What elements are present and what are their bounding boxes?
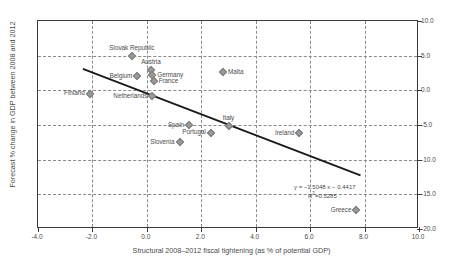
data-point-marker (148, 92, 156, 100)
gridline-vertical (147, 21, 148, 227)
gridline-vertical (365, 21, 366, 227)
plot-area: Slovak RepublicBelgiumAustriaGermanyFran… (37, 20, 418, 228)
y-tick-label: -20.0 (421, 225, 436, 232)
x-tick-label: 10.0 (412, 233, 425, 240)
x-tick (92, 227, 93, 232)
scatter-chart: Forecast % change in GDP between 2008 an… (0, 0, 463, 268)
data-point-label: Portugal (182, 129, 205, 135)
data-point-label: Malta (228, 68, 243, 74)
y-tick-label: 0.0 (421, 86, 430, 93)
data-point-marker (133, 72, 141, 80)
data-point-marker (219, 67, 227, 75)
data-point-marker (295, 128, 303, 136)
data-point-label: Belgium (110, 73, 133, 79)
x-tick (201, 227, 202, 232)
y-tick-label: 10.0 (421, 17, 434, 24)
gridline-horizontal (38, 160, 417, 161)
x-tick (38, 227, 39, 232)
gridline-horizontal (38, 90, 417, 91)
data-point-label: Slovak Republic (109, 44, 154, 50)
r-squared-value: =0.5285 (315, 193, 337, 199)
y-tick-label: 5.0 (421, 51, 430, 58)
data-point-label: Netherlands (113, 93, 147, 99)
x-axis-title: Structural 2008–2012 fiscal tightening (… (0, 246, 463, 255)
data-point-marker (175, 137, 183, 145)
data-point-label: France (159, 78, 179, 84)
gridline-horizontal (38, 194, 417, 195)
x-tick-label: -4.0 (31, 233, 42, 240)
data-point-label: Finland (64, 90, 85, 96)
data-point-marker (207, 129, 215, 137)
gridline-horizontal (38, 56, 417, 57)
regression-equation-annotation: y = −1.5048 x − 0.4417 R2=0.5285 (294, 183, 356, 200)
data-point-marker (224, 121, 232, 129)
y-tick-label: -15.0 (421, 190, 436, 197)
y-tick-label: -10.0 (421, 155, 436, 162)
data-point-marker (352, 206, 360, 214)
data-point-label: Slovenia (150, 138, 174, 144)
x-tick (310, 227, 311, 232)
data-point-label: Greece (331, 207, 352, 213)
y-axis-title: Forecast % change in GDP between 2008 an… (8, 0, 17, 210)
x-tick-label: 4.0 (250, 233, 259, 240)
x-tick-label: 6.0 (305, 233, 314, 240)
x-tick (147, 227, 148, 232)
gridline-vertical (92, 21, 93, 227)
x-tick-label: 2.0 (196, 233, 205, 240)
data-point-marker (149, 77, 157, 85)
regression-equation-line: y = −1.5048 x − 0.4417 (294, 183, 356, 191)
r-squared-line: R2=0.5285 (294, 191, 356, 200)
data-point-label: Ireland (275, 129, 294, 135)
x-tick-label: 0.0 (141, 233, 150, 240)
gridline-vertical (201, 21, 202, 227)
x-tick (256, 227, 257, 232)
data-point-label: Austria (141, 59, 161, 65)
data-point-marker (128, 51, 136, 59)
x-tick-label: 8.0 (359, 233, 368, 240)
x-tick (365, 227, 366, 232)
x-tick-label: -2.0 (86, 233, 97, 240)
y-tick-label: -5.0 (421, 121, 432, 128)
data-point-label: Italy (223, 114, 235, 120)
gridline-vertical (256, 21, 257, 227)
